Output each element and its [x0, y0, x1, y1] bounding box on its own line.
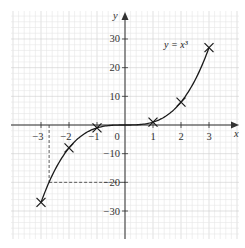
y-tick-label: −30 — [104, 206, 120, 217]
x-tick-label: 2 — [178, 131, 183, 142]
x-tick-label: −2 — [60, 131, 71, 142]
y-tick-label: −10 — [104, 148, 120, 159]
curve-label: y = x³ — [163, 39, 189, 50]
y-tick-label: 20 — [110, 62, 121, 73]
x-tick-label: 1 — [150, 131, 155, 142]
y-tick-label: −20 — [104, 177, 120, 188]
y-tick-label: 10 — [110, 91, 121, 102]
x-tick-label: −1 — [88, 131, 99, 142]
x-axis-label: x — [233, 128, 239, 139]
x-tick-label: 3 — [206, 131, 211, 142]
cubic-graph: xy −3−2−1123−30−20−101020300 y = x³ — [0, 0, 245, 248]
x-tick-label: −3 — [32, 131, 43, 142]
y-tick-label: 30 — [110, 33, 121, 44]
origin-label: 0 — [114, 131, 119, 142]
y-axis-label: y — [112, 10, 118, 21]
